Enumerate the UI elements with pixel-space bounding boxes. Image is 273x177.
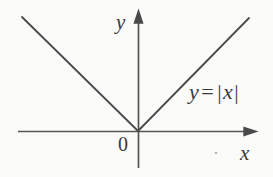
origin-label: 0 [118,134,128,154]
equation-label: y=|x| [189,81,240,103]
y-axis-label: y [116,12,125,33]
equation-lhs: y [189,79,199,104]
x-axis-label: x [240,143,249,164]
equation-bar-right: | [233,79,240,104]
equation-variable: x [223,79,233,104]
curve-left-branch [22,17,138,131]
equation-operator: = [199,79,216,104]
curve-right-branch [138,18,249,131]
absolute-value-graph-figure: y x 0 y=|x| [0,0,273,177]
scan-speck-icon [215,152,217,154]
